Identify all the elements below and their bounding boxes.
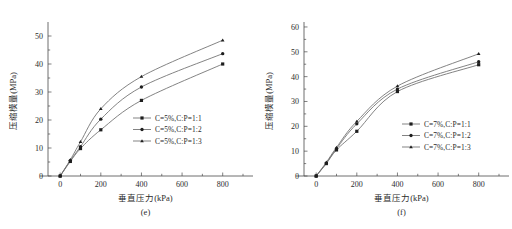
x-tick-label: 600: [176, 180, 188, 189]
x-tick-label: 0: [58, 180, 62, 189]
data-point-square-1-4: [140, 99, 143, 102]
data-point-square-legend: [409, 122, 412, 125]
y-tick-label: 10: [291, 147, 299, 156]
data-point-circle-2-2: [79, 145, 82, 148]
y-tick-label: 30: [291, 97, 299, 106]
legend-label: C=7%,C:P=1:2: [424, 131, 471, 140]
data-point-circle-legend: [409, 134, 412, 137]
panel-caption: (f): [397, 207, 406, 217]
legend-item-2: C=5%,C:P=1:2: [133, 125, 202, 134]
legend-label: C=7%,C:P=1:1: [424, 120, 471, 129]
data-point-triangle-3-5: [477, 52, 481, 55]
x-tick-label: 400: [391, 180, 403, 189]
x-axis-title: 垂直压力(kPa): [374, 193, 429, 203]
y-tick-label: 50: [291, 48, 299, 57]
x-tick-label: 800: [217, 180, 229, 189]
y-tick-label: 20: [35, 116, 43, 125]
chart-panel-f: 01020304050600200400600800压缩模量(MPa)垂直压力(…: [256, 0, 512, 229]
legend-item-1: C=5%,C:P=1:1: [133, 114, 202, 123]
y-tick-label: 40: [291, 73, 299, 82]
legend-item-1: C=7%,C:P=1:1: [402, 120, 471, 129]
y-tick-label: 50: [35, 32, 43, 41]
x-tick-label: 400: [135, 180, 147, 189]
legend-label: C=7%,C:P=1:3: [424, 143, 471, 152]
data-point-circle-2-5: [221, 52, 224, 55]
chart-plot-f: 01020304050600200400600800压缩模量(MPa)垂直压力(…: [256, 0, 512, 229]
x-tick-label: 200: [95, 180, 107, 189]
y-tick-label: 0: [39, 172, 43, 181]
data-point-circle-2-3: [355, 122, 358, 125]
chart-plot-e: 010203040500200400600800压缩模量(MPa)垂直压力(kP…: [0, 0, 256, 229]
y-tick-label: 10: [35, 144, 43, 153]
data-point-square-1-5: [221, 62, 224, 65]
data-point-square-1-5: [477, 63, 480, 66]
data-point-circle-2-4: [396, 87, 399, 90]
data-point-circle-2-5: [477, 60, 480, 63]
legend-label: C=5%,C:P=1:1: [155, 114, 202, 123]
y-tick-label: 30: [35, 88, 43, 97]
x-axis-title: 垂直压力(kPa): [118, 193, 173, 203]
legend-label: C=5%,C:P=1:3: [155, 137, 202, 146]
data-point-square-1-3: [355, 130, 358, 133]
data-point-circle-2-4: [140, 85, 143, 88]
data-point-circle-2-3: [99, 117, 102, 120]
legend-item-3: C=7%,C:P=1:3: [402, 143, 471, 152]
y-axis-title: 压缩模量(MPa): [264, 72, 274, 130]
y-tick-label: 20: [291, 122, 299, 131]
legend-item-2: C=7%,C:P=1:2: [402, 131, 471, 140]
y-tick-label: 40: [35, 60, 43, 69]
y-axis-title: 压缩模量(MPa): [8, 72, 18, 130]
figure-container: 010203040500200400600800压缩模量(MPa)垂直压力(kP…: [0, 0, 512, 229]
data-point-triangle-3-2: [79, 140, 83, 143]
y-tick-label: 60: [291, 23, 299, 32]
chart-panel-e: 010203040500200400600800压缩模量(MPa)垂直压力(kP…: [0, 0, 256, 229]
panel-caption: (e): [141, 207, 151, 217]
data-point-square-1-3: [99, 128, 102, 131]
x-tick-label: 800: [473, 180, 485, 189]
data-point-circle-legend: [140, 128, 143, 131]
legend-label: C=5%,C:P=1:2: [155, 125, 202, 134]
legend-item-3: C=5%,C:P=1:3: [133, 137, 202, 146]
series-line-2: [316, 62, 479, 176]
x-tick-label: 0: [314, 180, 318, 189]
x-tick-label: 200: [351, 180, 363, 189]
y-tick-label: 0: [295, 172, 299, 181]
x-tick-label: 600: [432, 180, 444, 189]
data-point-square-legend: [140, 116, 143, 119]
series-line-3: [60, 40, 223, 176]
data-point-triangle-3-5: [221, 38, 225, 41]
